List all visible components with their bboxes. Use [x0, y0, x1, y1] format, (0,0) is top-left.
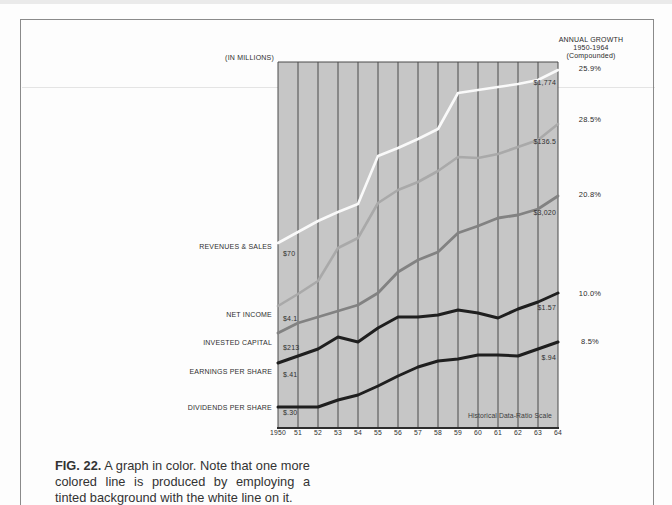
- annual-growth-header: ANNUAL GROWTH 1950-1964 (Compounded): [552, 36, 630, 60]
- series-start-value-revenues-sales: $70: [283, 250, 295, 257]
- series-start-value-invested-capital: $213: [283, 344, 299, 351]
- series-name-label-net-income: NET INCOME: [226, 311, 272, 318]
- annual-growth-header-line2: 1950-1964: [552, 44, 630, 52]
- series-start-value-dividends-per-share: $.30: [283, 409, 297, 416]
- series-end-value-invested-capital: $3,020: [533, 209, 556, 216]
- series-name-label-revenues-sales: REVENUES & SALES: [199, 243, 272, 250]
- series-end-value-earnings-per-share: $1.57: [537, 304, 556, 311]
- scale-note: Historical Data-Ratio Scale: [468, 412, 550, 419]
- series-end-value-revenues-sales: $1,774: [533, 79, 556, 86]
- series-name-label-earnings-per-share: EARNINGS PER SHARE: [189, 368, 272, 375]
- series-growth-value-net-income: 28.5%: [558, 116, 622, 124]
- annual-growth-header-line3: (Compounded): [552, 52, 630, 60]
- units-label: (IN MILLIONS): [225, 54, 274, 61]
- annual-growth-header-line1: ANNUAL GROWTH: [552, 36, 630, 44]
- series-name-label-dividends-per-share: DIVIDENDS PER SHARE: [188, 404, 272, 411]
- figure-caption: FIG. 22. A graph in color. Note that one…: [55, 458, 310, 505]
- series-growth-value-earnings-per-share: 10.0%: [558, 290, 622, 298]
- series-growth-value-revenues-sales: 25.9%: [558, 65, 622, 73]
- series-end-value-dividends-per-share: $.94: [542, 354, 556, 361]
- figure-caption-number: FIG. 22.: [55, 458, 101, 473]
- series-growth-value-invested-capital: 20.8%: [558, 191, 622, 199]
- series-start-value-net-income: $4.1: [283, 315, 297, 322]
- x-axis-label: 64: [546, 430, 570, 437]
- series-start-value-earnings-per-share: $.41: [283, 371, 297, 378]
- series-growth-value-dividends-per-share: 8.5%: [558, 338, 622, 346]
- series-end-value-net-income: $136.5: [533, 138, 556, 145]
- series-name-label-invested-capital: INVESTED CAPITAL: [203, 339, 272, 346]
